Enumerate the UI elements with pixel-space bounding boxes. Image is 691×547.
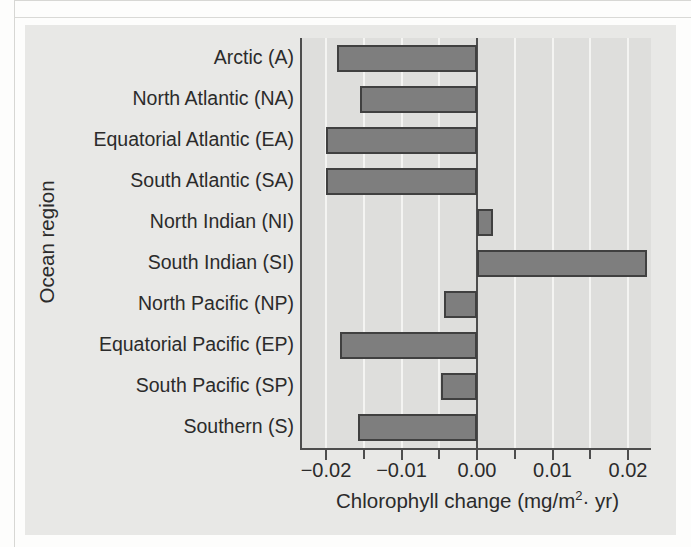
gridline [325, 38, 327, 448]
bar [358, 414, 477, 441]
gridline [514, 38, 516, 448]
x-axis-tick [589, 450, 591, 459]
x-axis-tick [363, 450, 365, 459]
gridline [552, 38, 554, 448]
gridline [589, 38, 591, 448]
category-label: South Atlantic (SA) [24, 169, 294, 192]
y-axis-line [300, 38, 302, 449]
x-tick-label: 0.02 [583, 459, 673, 482]
category-label-list: Arctic (A)North Atlantic (NA)Equatorial … [20, 38, 294, 448]
category-label: North Indian (NI) [24, 210, 294, 233]
gridline [627, 38, 629, 448]
bar [441, 373, 477, 400]
bar [477, 209, 493, 236]
category-label: South Indian (SI) [24, 251, 294, 274]
page-rule-top [14, 0, 691, 1]
category-label: Equatorial Atlantic (EA) [24, 128, 294, 151]
category-label: Arctic (A) [24, 46, 294, 69]
x-axis-tick [514, 450, 516, 459]
category-label: North Atlantic (NA) [24, 87, 294, 110]
x-axis-tick [438, 450, 440, 459]
bar [477, 250, 647, 277]
figure-page: Arctic (A)North Atlantic (NA)Equatorial … [0, 0, 691, 547]
y-axis-title: Ocean region [35, 162, 59, 322]
bar [444, 291, 477, 318]
x-axis-title-before: Chlorophyll change (mg/m [336, 489, 575, 512]
category-label: South Pacific (SP) [24, 374, 294, 397]
bar [360, 86, 477, 113]
category-label: Equatorial Pacific (EP) [24, 333, 294, 356]
category-label: North Pacific (NP) [24, 292, 294, 315]
bar [326, 168, 477, 195]
bar [340, 332, 477, 359]
x-axis-title: Chlorophyll change (mg/m2· yr) [280, 489, 675, 513]
plot-area [300, 38, 651, 448]
x-axis-title-after: · yr) [583, 489, 619, 512]
page-rule-second [14, 17, 691, 18]
bar [326, 127, 477, 154]
page-rule-left [14, 0, 15, 547]
category-label: Southern (S) [24, 415, 294, 438]
bar [337, 45, 477, 72]
x-axis-title-superscript: 2 [575, 488, 582, 503]
